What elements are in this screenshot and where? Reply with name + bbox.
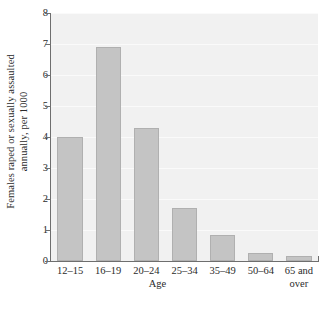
- y-axis-tick-mark: [45, 137, 51, 138]
- x-axis-tick-label: 50–64: [248, 264, 274, 277]
- bar: [134, 128, 159, 261]
- bar: [172, 208, 197, 261]
- x-axis-tick-label-line: 16–19: [95, 264, 121, 277]
- x-axis-tick-label-line: 50–64: [248, 264, 274, 277]
- bar: [210, 235, 235, 261]
- plot-area: [51, 13, 318, 261]
- bar: [57, 137, 82, 261]
- x-axis-tick-label-line: over: [285, 277, 313, 290]
- y-axis-tick-mark: [45, 199, 51, 200]
- bar-series: [51, 13, 318, 261]
- y-axis-tick-mark: [45, 106, 51, 107]
- y-axis-tick-mark: [45, 230, 51, 231]
- x-axis-tick-label: 20–24: [133, 264, 159, 277]
- x-axis-title: Age: [51, 278, 264, 290]
- x-axis-tick-label-line: 20–24: [133, 264, 159, 277]
- y-axis-tick-mark: [45, 13, 51, 14]
- x-axis-tick-label: 16–19: [95, 264, 121, 277]
- x-axis-tick-label-line: 12–15: [57, 264, 83, 277]
- y-axis-tick-mark: [45, 44, 51, 45]
- x-axis-tick-label-line: 65 and: [285, 264, 313, 277]
- x-axis-tick-label: 35–49: [210, 264, 236, 277]
- bar: [248, 253, 273, 261]
- y-axis-title-line-1: Females raped or sexually assaulted: [5, 54, 18, 209]
- x-axis-tick-label-line: 35–49: [210, 264, 236, 277]
- y-axis-tick-mark: [45, 168, 51, 169]
- y-axis-title-line-2: annually, per 1000: [17, 54, 30, 209]
- x-axis-end-tick: [318, 256, 319, 262]
- x-axis-line: [50, 261, 319, 262]
- x-axis-tick-label: 12–15: [57, 264, 83, 277]
- y-axis-tick-mark: [45, 261, 51, 262]
- x-axis-tick-label: 25–34: [171, 264, 197, 277]
- x-axis-tick-label: 65 andover: [285, 264, 313, 290]
- bar: [96, 47, 121, 261]
- bar-chart-figure: Females raped or sexually assaulted annu…: [0, 0, 335, 310]
- y-axis-title: Females raped or sexually assaulted annu…: [0, 0, 34, 262]
- x-axis-tick-label-line: 25–34: [171, 264, 197, 277]
- y-axis-tick-mark: [45, 75, 51, 76]
